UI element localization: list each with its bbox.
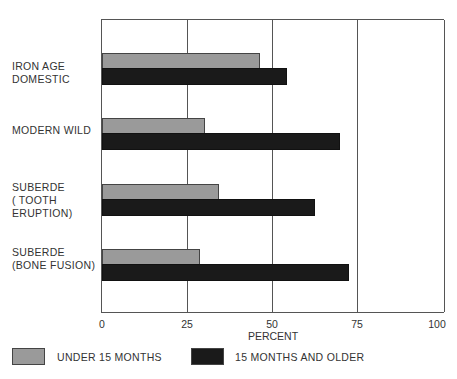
category-label: SUBERDE (BONE FUSION)	[12, 246, 95, 272]
x-tick-75: 75	[351, 318, 363, 330]
legend-swatch-under-15	[12, 348, 45, 365]
bar-under-15	[102, 249, 200, 265]
gridline-75	[357, 20, 358, 312]
bar-15-and-older	[102, 133, 340, 150]
bar-15-and-older	[102, 264, 349, 281]
x-tick-50: 50	[266, 318, 278, 330]
x-tick-0: 0	[99, 318, 105, 330]
bar-under-15	[102, 118, 205, 134]
legend-label-under-15: UNDER 15 MONTHS	[57, 351, 162, 363]
legend-label-15-and-older: 15 MONTHS AND OLDER	[235, 351, 364, 363]
bar-under-15	[102, 184, 219, 200]
bar-15-and-older	[102, 68, 287, 85]
category-label: IRON AGE DOMESTIC	[12, 60, 70, 86]
gridline-100	[444, 20, 445, 312]
category-label: MODERN WILD	[12, 124, 91, 137]
bar-under-15	[102, 53, 260, 69]
bar-15-and-older	[102, 199, 315, 216]
legend-swatch-15-and-older	[191, 348, 224, 365]
x-axis-label: PERCENT	[248, 330, 298, 342]
plot-area	[101, 19, 444, 313]
category-label: SUBERDE ( TOOTH ERUPTION)	[12, 181, 72, 220]
x-tick-100: 100	[428, 318, 446, 330]
x-tick-25: 25	[181, 318, 193, 330]
